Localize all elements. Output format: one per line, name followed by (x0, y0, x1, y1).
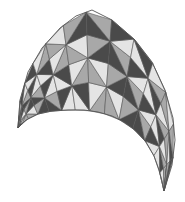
triangulated-crescent-mesh (0, 0, 185, 202)
mesh-triangle (110, 20, 134, 41)
figure (0, 0, 185, 202)
triangle-faces (18, 12, 174, 191)
mesh-triangle (46, 26, 66, 45)
